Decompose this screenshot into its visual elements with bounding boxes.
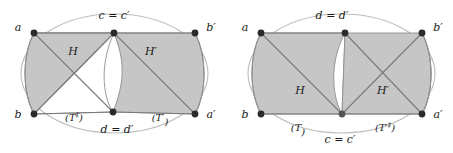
right-region-label-H: H xyxy=(294,84,305,97)
left-vertex-d xyxy=(110,109,117,116)
left-region-label-H-prime: H′ xyxy=(144,45,158,58)
left-vertex-b-prime xyxy=(192,30,199,37)
left-label-b: b xyxy=(14,108,21,121)
right-label-c: c = c′ xyxy=(324,133,356,146)
right-surface-Tp-base: (T′ xyxy=(375,122,389,133)
right-shaded-region-Hprime-lobe xyxy=(342,33,431,114)
right-shaded-region-H xyxy=(252,33,345,114)
left-label-d: d = d′ xyxy=(101,123,134,136)
left-diagram: a b c = c′ d = d′ b′ a′ H H′ (T‡) (T′) xyxy=(14,9,216,136)
right-surface-label-T-prime-dagger: (T′‡) xyxy=(375,121,395,133)
left-surface-Tp-close: ) xyxy=(163,116,168,127)
right-surface-T-close: ) xyxy=(300,126,305,137)
right-region-label-H-prime: H′ xyxy=(376,84,390,97)
right-vertex-b xyxy=(258,111,265,118)
left-vertex-a-prime xyxy=(192,111,199,118)
right-surface-Tp-close: ) xyxy=(390,122,395,133)
diagram-canvas: a b c = c′ d = d′ b′ a′ H H′ (T‡) (T′) xyxy=(0,0,453,153)
right-vertex-d xyxy=(342,30,349,37)
right-label-d: d = d′ xyxy=(316,9,349,22)
right-label-b: b xyxy=(241,108,248,121)
right-vertex-b-prime xyxy=(419,30,426,37)
left-label-a: a xyxy=(15,21,22,34)
right-surface-label-T: (T) xyxy=(291,122,306,137)
figure-root: a b c = c′ d = d′ b′ a′ H H′ (T‡) (T′) xyxy=(0,0,453,153)
right-label-b-prime: b′ xyxy=(433,21,443,34)
left-surface-T-close: ) xyxy=(78,112,83,123)
right-vertex-a-prime xyxy=(419,111,426,118)
left-region-label-H: H xyxy=(67,45,78,58)
right-vertex-c xyxy=(339,111,346,118)
right-diagram: a b d = d′ c = c′ b′ a′ H H′ (T) (T′‡) xyxy=(241,9,443,146)
left-surface-label-T-dagger: (T‡) xyxy=(65,111,83,123)
right-vertex-a xyxy=(258,30,265,37)
right-label-a: a xyxy=(242,21,249,34)
left-surface-label-T-prime: (T′) xyxy=(152,112,169,127)
left-label-a-prime: a′ xyxy=(206,108,216,121)
right-label-a-prime: a′ xyxy=(433,108,443,121)
left-label-b-prime: b′ xyxy=(206,21,216,34)
left-surface-Tp-base: (T′ xyxy=(152,112,166,123)
left-vertex-a xyxy=(31,30,38,37)
left-vertex-b xyxy=(31,111,38,118)
left-vertex-c xyxy=(111,30,118,37)
left-label-c: c = c′ xyxy=(98,9,130,22)
